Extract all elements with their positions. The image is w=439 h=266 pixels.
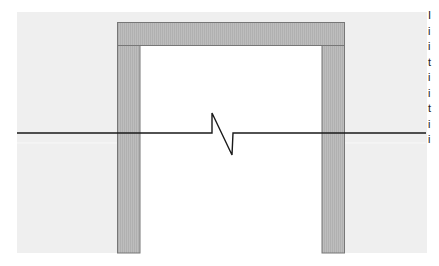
side-text-line: I [428,8,439,24]
opening [140,45,322,253]
diagram-canvas [0,0,439,266]
side-text-line: i [428,39,439,55]
side-text-line: t [428,55,439,71]
clipped-side-text: I i i t i i t i i [428,8,439,148]
frame-header [118,23,345,46]
side-text-line: i [428,117,439,133]
side-text-line: t [428,101,439,117]
frame-left-jamb [118,46,141,254]
side-text-line: i [428,132,439,148]
side-text-line: i [428,24,439,40]
frame-right-jamb [322,46,345,254]
side-text-line: i [428,86,439,102]
side-text-line: i [428,70,439,86]
